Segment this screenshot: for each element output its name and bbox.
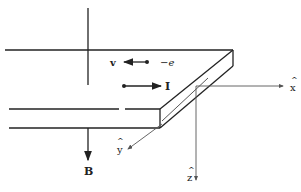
current-label: I <box>165 80 170 93</box>
electron-dot <box>145 60 149 64</box>
electron-label: −e <box>160 57 174 68</box>
b-field-label: B <box>84 165 93 178</box>
z-axis-label: z <box>187 172 192 183</box>
x-axis-label: x <box>290 82 296 93</box>
hall-effect-diagram: B v −e I ^ x ^ z ^ y <box>0 0 301 192</box>
y-axis-label: y <box>116 144 123 155</box>
velocity-label: v <box>109 57 117 68</box>
coordinate-axes: ^ x ^ z ^ y <box>116 75 298 183</box>
slab-bottom-right-edge <box>160 66 233 128</box>
slab <box>5 50 233 128</box>
